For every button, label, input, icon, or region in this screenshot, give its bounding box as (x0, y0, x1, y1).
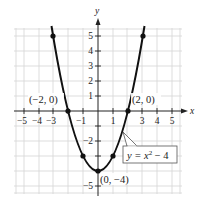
svg-text:4: 4 (155, 116, 160, 126)
point-3-5 (140, 33, 145, 38)
svg-text:−3: −3 (46, 116, 56, 126)
svg-text:1: 1 (88, 91, 93, 101)
equation-callout: y = x2 − 4 (123, 132, 177, 163)
x-axis-arrow-icon (181, 109, 188, 114)
annotation-neg2-0: (−2, 0) (29, 94, 58, 106)
point-2-0 (125, 108, 130, 113)
annotation-2-0: (2, 0) (132, 94, 155, 106)
equation-label: y = x2 − 4 (126, 149, 169, 161)
x-axis-label: x (189, 106, 195, 116)
svg-text:3: 3 (140, 116, 145, 126)
parabola-chart: x y −5 −4 −3 −1 1 3 4 5 5 4 (0, 0, 205, 202)
point-vertex (95, 168, 100, 173)
point-neg1-neg3 (80, 153, 85, 158)
svg-text:3: 3 (88, 61, 93, 71)
point-1-neg3 (110, 153, 115, 158)
svg-text:−5: −5 (83, 181, 93, 191)
svg-text:2: 2 (88, 76, 93, 86)
x-tick-labels: −5 −4 −3 −1 1 3 4 5 (17, 116, 175, 126)
svg-text:5: 5 (88, 31, 93, 41)
svg-text:1: 1 (111, 116, 116, 126)
y-axis-label: y (94, 6, 100, 16)
point-neg2-0 (65, 108, 70, 113)
y-axis-arrow-icon (96, 18, 101, 25)
svg-text:4: 4 (88, 46, 93, 56)
svg-text:−1: −1 (76, 116, 86, 126)
svg-text:−4: −4 (32, 116, 42, 126)
point-neg3-5 (50, 33, 55, 38)
svg-text:5: 5 (170, 116, 175, 126)
svg-text:−2: −2 (83, 136, 93, 146)
svg-text:−5: −5 (17, 116, 27, 126)
annotation-vertex: (0, −4) (100, 174, 129, 186)
